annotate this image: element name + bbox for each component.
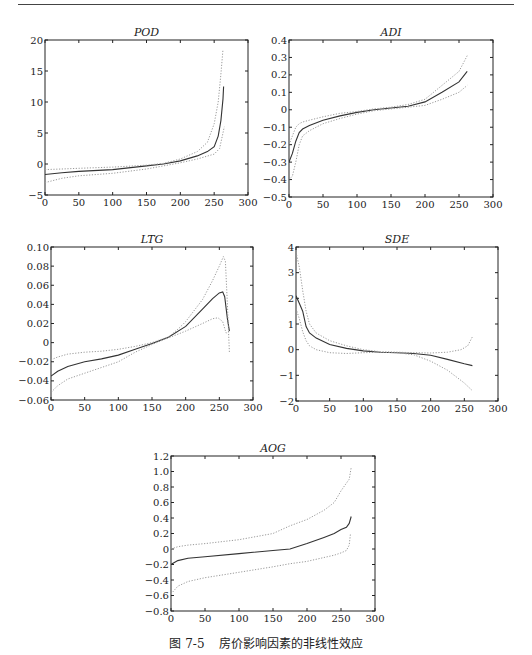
x-tick-label: 150 (381, 199, 400, 210)
y-tick-label: 0 (163, 544, 169, 555)
x-tick-label: 300 (238, 197, 257, 208)
plot-frame (51, 247, 253, 400)
estimate-line (51, 292, 229, 376)
y-tick-label: 10 (30, 97, 43, 108)
x-tick-label: 100 (354, 403, 373, 414)
y-tick-label: 3 (288, 267, 294, 278)
figure-caption: 图 7-5房价影响因素的非线性效应 (0, 634, 532, 651)
x-tick-label: 250 (210, 402, 229, 413)
x-tick-label: 150 (263, 613, 282, 624)
y-tick-label: 0.1 (271, 87, 287, 98)
y-tick-label: 0.6 (153, 497, 169, 508)
confidence-band-line (171, 534, 351, 595)
x-tick-label: 150 (142, 402, 161, 413)
y-tick-label: 4 (288, 242, 294, 253)
x-tick-label: 200 (176, 402, 195, 413)
confidence-band-line (51, 318, 229, 393)
x-tick-label: 50 (323, 403, 336, 414)
y-tick-label: −2 (279, 396, 294, 407)
x-tick-label: 100 (347, 199, 366, 210)
chart-title: LTG (140, 233, 164, 246)
y-tick-label: 0.06 (27, 280, 49, 291)
y-tick-label: −1 (279, 370, 294, 381)
x-tick-label: 250 (205, 197, 224, 208)
y-tick-label: 0.02 (27, 318, 49, 329)
x-tick-label: 200 (421, 403, 440, 414)
x-tick-label: 100 (103, 197, 122, 208)
x-tick-label: 250 (449, 199, 468, 210)
y-tick-label: 2 (288, 293, 294, 304)
confidence-band-line (45, 49, 223, 169)
x-tick-label: 50 (72, 197, 85, 208)
y-tick-label: 0.2 (153, 528, 169, 539)
x-tick-label: 150 (387, 403, 406, 414)
y-tick-label: −5 (28, 190, 43, 201)
y-tick-label: −0.2 (145, 559, 169, 570)
confidence-band-line (296, 309, 472, 391)
y-tick-label: 0.10 (27, 242, 49, 253)
chart-panel-pod: POD050100150200250300−505101520 (28, 26, 257, 208)
confidence-band-line (296, 252, 472, 353)
x-tick-label: 100 (229, 613, 248, 624)
y-tick-label: −0.04 (18, 375, 49, 386)
y-tick-label: −0.2 (263, 139, 287, 150)
y-tick-label: 0.08 (27, 261, 49, 272)
chart-title: SDE (385, 233, 409, 246)
plot-frame (289, 40, 493, 197)
y-tick-label: −0.4 (263, 174, 287, 185)
chart-panel-sde: SDE050100150200250300−2−101234 (279, 233, 507, 414)
y-tick-label: −0.06 (18, 395, 49, 406)
y-tick-label: −0.5 (263, 192, 287, 203)
x-tick-label: 50 (78, 402, 91, 413)
figure-panels: POD050100150200250300−505101520ADI050100… (0, 0, 532, 655)
x-tick-label: 150 (137, 197, 156, 208)
x-tick-label: 300 (488, 403, 507, 414)
chart-panel-ltg: LTG050100150200250300−0.06−0.04−0.0200.0… (18, 233, 262, 413)
y-tick-label: 0.8 (153, 482, 169, 493)
confidence-band-line (289, 85, 467, 179)
x-tick-label: 300 (365, 613, 384, 624)
y-tick-label: 0 (43, 337, 49, 348)
y-tick-label: 0.4 (271, 35, 287, 46)
confidence-band-line (51, 257, 229, 360)
y-tick-label: −0.4 (145, 575, 169, 586)
estimate-line (296, 296, 472, 366)
chart-title: ADI (379, 26, 402, 39)
y-tick-label: −0.1 (263, 122, 287, 133)
y-tick-label: 1.0 (153, 466, 169, 477)
y-tick-label: 0.2 (271, 69, 287, 80)
estimate-line (289, 71, 467, 162)
caption-number: 图 7-5 (169, 637, 204, 651)
x-tick-label: 200 (415, 199, 434, 210)
plot-frame (171, 456, 375, 611)
y-tick-label: 0 (288, 344, 294, 355)
y-tick-label: 20 (30, 35, 43, 46)
chart-title: AOG (259, 442, 286, 455)
y-tick-label: −0.8 (145, 606, 169, 617)
x-tick-label: 300 (243, 402, 262, 413)
x-tick-label: 200 (171, 197, 190, 208)
x-tick-label: 200 (297, 613, 316, 624)
y-tick-label: 0.04 (27, 299, 49, 310)
y-tick-label: 15 (30, 66, 43, 77)
x-tick-label: 250 (455, 403, 474, 414)
y-tick-label: 0.4 (153, 513, 169, 524)
y-tick-label: −0.02 (18, 356, 49, 367)
x-tick-label: 50 (317, 199, 330, 210)
chart-panel-aog: AOG050100150200250300−0.8−0.6−0.4−0.200.… (145, 442, 385, 624)
plot-frame (296, 247, 498, 401)
y-tick-label: 1.2 (153, 451, 169, 462)
x-tick-label: 250 (331, 613, 350, 624)
chart-panel-adi: ADI050100150200250300−0.5−0.4−0.3−0.2−0.… (263, 26, 503, 210)
y-tick-label: 0 (37, 159, 43, 170)
confidence-band-line (45, 127, 224, 183)
x-tick-label: 100 (109, 402, 128, 413)
estimate-line (45, 87, 224, 175)
y-tick-label: 5 (37, 128, 43, 139)
y-tick-label: −0.3 (263, 157, 287, 168)
x-tick-label: 50 (199, 613, 212, 624)
y-tick-label: 0.3 (271, 52, 287, 63)
y-tick-label: 1 (288, 319, 294, 330)
y-tick-label: 0 (281, 104, 287, 115)
x-tick-label: 300 (483, 199, 502, 210)
